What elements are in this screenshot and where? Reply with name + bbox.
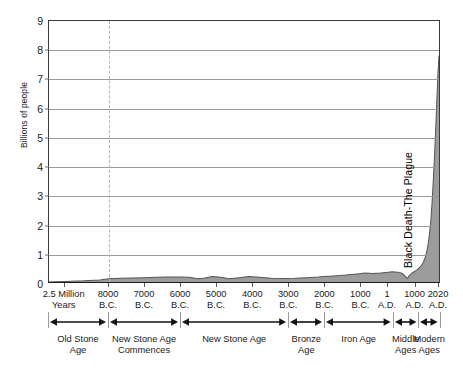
era-label-6: ModernAges [413,334,445,357]
y-tick-mark-2 [45,225,49,226]
x-tick-mark-11 [438,283,439,287]
era-divider-6 [418,312,419,328]
y-tick-label-3: 3 [37,190,43,202]
area-fill-0 [49,56,439,282]
x-tick-line2: B.C. [243,300,261,310]
x-tick-line2: B.C. [207,300,225,310]
x-tick-line1: 7000 [134,289,155,299]
gridline-y-4 [49,167,439,168]
y-tick-label-2: 2 [37,220,43,232]
x-tick-mark-6 [288,283,289,287]
gridline-y-1 [49,255,439,256]
era-label-line1: New Stone Age [112,334,176,344]
y-tick-mark-6 [45,108,49,109]
era-divider-1 [108,312,109,328]
era-label-line2: Age [70,345,87,355]
era-arrow-0 [50,316,106,328]
x-tick-line1: 2000 [314,289,335,299]
x-tick-line2: B.C. [135,300,153,310]
era-divider-5 [393,312,394,328]
y-tick-label-1: 1 [37,249,43,261]
x-tick-line1: 1000 [350,289,371,299]
y-tick-label-4: 4 [37,161,43,173]
x-tick-label-10: 1000A.D. [404,289,425,312]
x-tick-mark-5 [252,283,253,287]
x-tick-label-8: 1000B.C. [350,289,371,312]
x-tick-line2: A.D. [429,300,447,310]
x-tick-label-4: 5000B.C. [206,289,227,312]
era-divider-4 [324,312,325,328]
y-tick-mark-8 [45,50,49,51]
x-tick-line1: 3000 [278,289,299,299]
x-tick-label-3: 6000B.C. [170,289,191,312]
reference-line-0 [109,21,110,282]
x-tick-line1: 6000 [170,289,191,299]
y-tick-label-6: 6 [37,103,43,115]
x-tick-line1: 1000 [404,289,425,299]
x-tick-line1: 8000 [98,289,119,299]
era-arrow-3 [290,316,322,328]
gridline-y-6 [49,109,439,110]
x-tick-label-7: 2000B.C. [314,289,335,312]
era-label-3: BronzeAge [292,334,321,357]
x-tick-label-1: 8000B.C. [98,289,119,312]
plot-area: 0123456789Black Death-The Plague [48,20,440,283]
area-outline-0 [49,56,439,282]
x-tick-mark-3 [180,283,181,287]
x-tick-line1: 2.5 Million [43,289,85,299]
era-label-2: New Stone Age [202,334,266,345]
era-label-4: Iron Age [341,334,376,345]
era-divider-7 [440,312,441,328]
era-label-line1: Iron Age [341,334,376,344]
x-tick-line1: 4000 [242,289,263,299]
y-tick-mark-7 [45,79,49,80]
x-tick-line1: 1 [384,289,389,299]
x-tick-label-0: 2.5 MillionYears [43,289,85,312]
x-tick-label-2: 7000B.C. [134,289,155,312]
era-label-line2: Commences [118,345,170,355]
x-tick-mark-2 [144,283,145,287]
x-tick-mark-7 [324,283,325,287]
x-tick-mark-4 [216,283,217,287]
gridline-y-7 [49,79,439,80]
x-tick-line2: Years [52,300,75,310]
annotation-black-death: Black Death-The Plague [402,152,414,268]
era-arrow-2 [182,316,286,328]
y-tick-mark-3 [45,196,49,197]
era-arrow-1 [110,316,178,328]
x-tick-line2: B.C. [279,300,297,310]
era-label-line1: New Stone Age [202,334,266,344]
y-tick-label-8: 8 [37,44,43,56]
era-divider-2 [180,312,181,328]
x-tick-line2: B.C. [315,300,333,310]
x-tick-mark-1 [108,283,109,287]
x-tick-line2: A.D. [378,300,396,310]
era-label-line2: Age [298,345,315,355]
y-tick-mark-1 [45,254,49,255]
y-axis-title: Billions of people [19,35,29,195]
era-arrow-4 [326,316,391,328]
y-tick-label-5: 5 [37,132,43,144]
era-divider-3 [288,312,289,328]
gridline-y-8 [49,50,439,51]
era-label-line2: Ages [419,345,440,355]
era-divider-0 [48,312,49,328]
era-arrow-5 [395,316,416,328]
x-tick-label-5: 4000B.C. [242,289,263,312]
era-label-1: New Stone AgeCommences [112,334,176,357]
y-tick-mark-5 [45,137,49,138]
era-label-line1: Bronze [292,334,321,344]
x-tick-line2: B.C. [351,300,369,310]
x-tick-mark-9 [387,283,388,287]
x-tick-mark-10 [415,283,416,287]
era-label-line1: Old Stone [57,334,98,344]
x-tick-line2: B.C. [171,300,189,310]
x-tick-mark-8 [360,283,361,287]
era-label-line1: Modern [413,334,445,344]
x-tick-line1: 2020 [428,289,449,299]
x-tick-label-6: 3000B.C. [278,289,299,312]
x-tick-line2: A.D. [405,300,423,310]
y-tick-mark-4 [45,167,49,168]
era-arrow-6 [420,316,438,328]
x-tick-label-11: 2020A.D. [428,289,449,312]
